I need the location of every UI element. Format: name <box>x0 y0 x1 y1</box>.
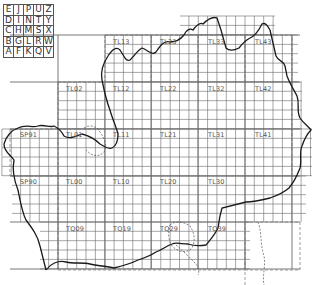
grid-square-label: TL01 <box>66 131 83 139</box>
grid-square-label: TL31 <box>208 131 225 139</box>
grid-square-label: TL13 <box>113 38 130 46</box>
grid-square-label: TL12 <box>113 85 130 93</box>
grid-square-label: TL33 <box>208 38 225 46</box>
legend-cell: N <box>24 15 34 26</box>
grid-square-label: TQ19 <box>113 225 131 233</box>
legend-cell: C <box>4 26 14 37</box>
legend-cell: U <box>34 5 44 16</box>
grid-square-label: TL22 <box>160 85 177 93</box>
legend-cell: K <box>24 47 34 58</box>
legend-cell: W <box>44 36 54 47</box>
grid-square-label: TL32 <box>208 85 225 93</box>
legend-cell: B <box>4 36 14 47</box>
legend-cell: G <box>14 36 24 47</box>
legend-cell: T <box>34 15 44 26</box>
legend-cell: M <box>24 26 34 37</box>
grid-square-label: TL43 <box>255 38 272 46</box>
legend-cell: J <box>14 5 24 16</box>
grid-square-label: TQ09 <box>66 225 84 233</box>
grid-square-label: TL41 <box>255 131 272 139</box>
legend-cell: F <box>14 47 24 58</box>
legend-cell: V <box>44 47 54 58</box>
grid-square-label: TQ29 <box>160 225 178 233</box>
grid-square-label: TL00 <box>66 178 83 186</box>
legend-cell: E <box>4 5 14 16</box>
legend-cell: P <box>24 5 34 16</box>
district-boundaries <box>84 126 265 285</box>
legend-cell: X <box>44 26 54 37</box>
grid-square-label: TL02 <box>66 85 83 93</box>
grid-square-label: TL23 <box>160 38 177 46</box>
legend-cell: D <box>4 15 14 26</box>
grid-square-label: TL11 <box>113 131 130 139</box>
grid-square-label: TL10 <box>113 178 130 186</box>
grid-square-label: SP90 <box>20 178 37 186</box>
tetrad-letter-legend: EJPUZDINTYCHMSXBGLRWAFKQV <box>3 4 54 58</box>
grid-square-label: TL20 <box>160 178 177 186</box>
legend-cell: H <box>14 26 24 37</box>
grid-square-label: TL30 <box>208 178 225 186</box>
legend-cell: I <box>14 15 24 26</box>
grid-square-label: TQ39 <box>208 225 226 233</box>
legend-cell: A <box>4 47 14 58</box>
grid-square-label: SP91 <box>20 131 37 139</box>
legend-cell: Z <box>44 5 54 16</box>
grid-square-label: TL42 <box>255 85 272 93</box>
legend-cell: Y <box>44 15 54 26</box>
legend-cell: L <box>24 36 34 47</box>
legend-cell: S <box>34 26 44 37</box>
grid-square-label: TL21 <box>160 131 177 139</box>
legend-cell: R <box>34 36 44 47</box>
legend-cell: Q <box>34 47 44 58</box>
